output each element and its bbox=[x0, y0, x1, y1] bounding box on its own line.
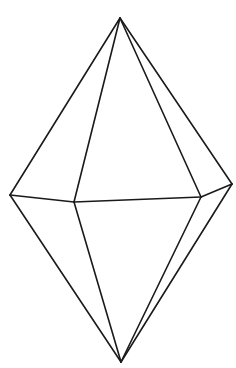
edge-front_left-bottom bbox=[74, 202, 121, 362]
edge-front_left-front_right bbox=[74, 197, 201, 202]
edge-top-left bbox=[10, 18, 120, 195]
edge-top-front_left bbox=[74, 18, 120, 202]
bipyramid-drawing bbox=[0, 0, 236, 368]
edge-top-right bbox=[120, 18, 232, 184]
crystal-diagram bbox=[0, 0, 236, 368]
edge-top-front_right bbox=[120, 18, 201, 197]
edge-right-bottom bbox=[121, 184, 232, 362]
edge-left-front_left bbox=[10, 195, 74, 202]
edge-left-bottom bbox=[10, 195, 121, 362]
edge-front_right-bottom bbox=[121, 197, 201, 362]
